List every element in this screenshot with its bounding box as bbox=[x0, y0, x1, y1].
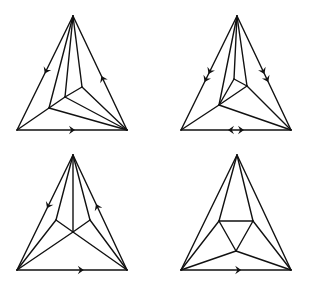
edge-apex-q bbox=[73, 155, 90, 220]
edge-apex-bl bbox=[17, 155, 73, 270]
edge-b-br bbox=[65, 97, 127, 130]
edge-q-br bbox=[90, 220, 127, 270]
edge-r-n bbox=[236, 221, 253, 251]
panel-bottom-right bbox=[181, 155, 291, 274]
edge-apex-b bbox=[65, 16, 73, 97]
edge-apex-br bbox=[237, 155, 291, 270]
edge-apex-br bbox=[73, 155, 127, 270]
edge-p-bl bbox=[17, 220, 56, 270]
panel-bottom-left bbox=[17, 155, 127, 274]
edge-q-m bbox=[73, 220, 90, 232]
edge-l-bl bbox=[181, 221, 219, 270]
edge-b-c bbox=[65, 87, 82, 97]
edge-apex-bl bbox=[181, 155, 237, 270]
edge-f-br bbox=[247, 86, 291, 130]
edge-l-n bbox=[219, 221, 236, 251]
edge-apex-br bbox=[73, 16, 127, 130]
panel-top-left bbox=[17, 16, 127, 134]
edge-p-m bbox=[56, 220, 73, 232]
panel-top-right bbox=[181, 16, 291, 134]
edge-e-f bbox=[234, 79, 247, 86]
edge-m-br bbox=[73, 232, 127, 270]
triangulation-figure bbox=[0, 0, 313, 289]
edge-apex-r bbox=[237, 155, 253, 221]
edge-apex-p bbox=[56, 155, 73, 220]
edge-m-bl bbox=[17, 232, 73, 270]
edge-d-f bbox=[219, 86, 247, 105]
